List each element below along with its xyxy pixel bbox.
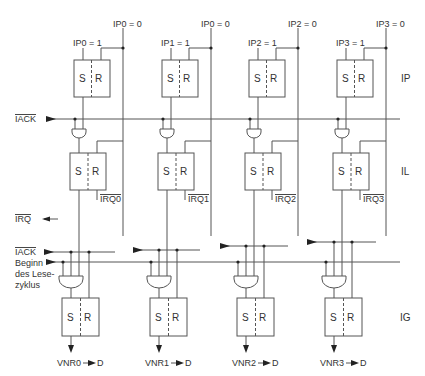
and-gate-upper-2 [247, 129, 261, 138]
ip-reset-label-0: IP0 = 0 [113, 19, 142, 29]
svg-text:S: S [330, 312, 337, 323]
svg-text:R: R [259, 312, 266, 323]
irq-label: IRQ [15, 214, 31, 224]
vnr-output-0: VNR0 D [57, 358, 104, 368]
svg-text:VNR0: VNR0 [57, 358, 81, 368]
svg-text:VNR1: VNR1 [145, 358, 169, 368]
svg-text:D: D [97, 358, 104, 368]
svg-text:R: R [172, 312, 179, 323]
read-cycle-label-3: zyklus [15, 280, 41, 290]
svg-text:S: S [163, 166, 170, 177]
svg-text:VNR2: VNR2 [232, 358, 256, 368]
read-cycle-label-1: Beginn [15, 258, 43, 268]
iack-bottom-label: IACK [15, 247, 36, 257]
svg-text:R: R [347, 312, 354, 323]
svg-text:D: D [360, 358, 367, 368]
channel-3 [322, 28, 388, 353]
ip-set-label-2: IP2 = 1 [248, 38, 277, 48]
svg-text:S: S [75, 166, 82, 177]
chain-arrow-icon-1 [133, 247, 143, 253]
chain-arrow-icon-2 [220, 243, 230, 249]
irq-label-1: IRQ1 [188, 194, 209, 204]
and-gate-lower-0 [59, 276, 83, 288]
vnr-output-2: VNR2 D [232, 358, 279, 368]
irq-arrow-icon [42, 217, 50, 222]
read-cycle-label-2: des Lese- [15, 269, 55, 279]
svg-text:S: S [79, 73, 86, 84]
read-cycle-arrow-icon [46, 259, 56, 265]
chain-arrow-icon-3 [307, 239, 317, 245]
svg-text:R: R [84, 312, 91, 323]
svg-text:S: S [155, 312, 162, 323]
svg-text:S: S [250, 166, 257, 177]
stage-label-ig: IG [400, 312, 411, 323]
interrupt-logic-diagram: IP0 = 1 IP0 = 0 IP1 = 1 IP0 = 0 IP2 = 1 … [0, 0, 425, 376]
and-gate-lower-2 [234, 276, 258, 288]
ip-set-label-0: IP0 = 1 [73, 38, 102, 48]
svg-text:S: S [242, 312, 249, 323]
svg-text:R: R [355, 166, 362, 177]
irq-label-2: IRQ2 [275, 194, 296, 204]
ip-reset-label-1: IP0 = 0 [201, 19, 230, 29]
svg-text:S: S [254, 73, 261, 84]
svg-text:S: S [338, 166, 345, 177]
iack-top-arrow-icon [46, 116, 56, 122]
ip-reset-label-3: IP3 = 0 [376, 19, 405, 29]
svg-text:R: R [183, 73, 190, 84]
channel-1 [147, 28, 213, 353]
iack-top-label: IACK [15, 114, 36, 124]
ip-reset-label-2: IP2 = 0 [288, 19, 317, 29]
and-gate-lower-3 [322, 276, 346, 288]
ip-set-label-3: IP3 = 1 [336, 38, 365, 48]
svg-text:S: S [67, 312, 74, 323]
irq-label-0: IRQ0 [100, 194, 121, 204]
and-gate-lower-1 [147, 276, 171, 288]
stage-label-il: IL [401, 166, 410, 177]
svg-text:R: R [270, 73, 277, 84]
ip-set-label-1: IP1 = 1 [161, 38, 190, 48]
svg-text:VNR3: VNR3 [320, 358, 344, 368]
svg-text:D: D [272, 358, 279, 368]
svg-text:R: R [92, 166, 99, 177]
svg-text:D: D [185, 358, 192, 368]
and-gate-upper-0 [72, 129, 86, 138]
svg-text:R: R [267, 166, 274, 177]
iack-bottom-arrow-icon [44, 249, 54, 255]
svg-text:S: S [167, 73, 174, 84]
vnr-output-3: VNR3 D [320, 358, 367, 368]
svg-text:S: S [342, 73, 349, 84]
stage-label-ip: IP [401, 73, 411, 84]
vnr-output-1: VNR1 D [145, 358, 192, 368]
svg-text:R: R [95, 73, 102, 84]
channel-2 [234, 28, 300, 353]
and-gate-upper-3 [335, 129, 349, 138]
irq-label-3: IRQ3 [363, 194, 384, 204]
svg-text:R: R [358, 73, 365, 84]
channel-0 [59, 28, 125, 353]
svg-text:R: R [180, 166, 187, 177]
and-gate-upper-1 [160, 129, 174, 138]
